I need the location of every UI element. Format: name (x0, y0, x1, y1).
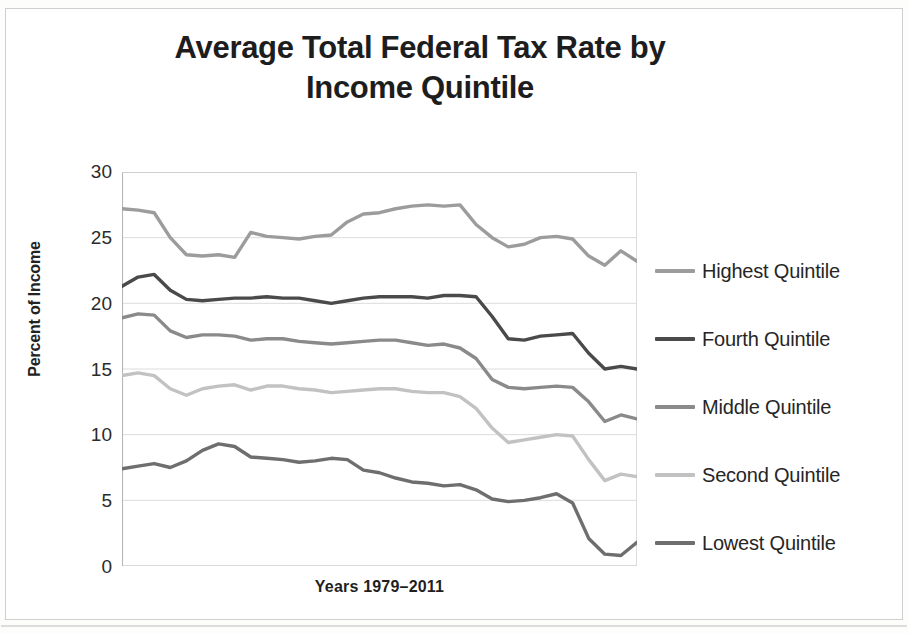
series-line (122, 314, 637, 422)
y-tick-30: 30 (72, 161, 112, 183)
legend-label-fourth-quintile: Fourth Quintile (702, 328, 830, 351)
legend-item-fourth-quintile: Fourth Quintile (655, 305, 900, 373)
gridlines (122, 172, 637, 566)
y-tick-20: 20 (72, 293, 112, 315)
y-tick-25: 25 (72, 227, 112, 249)
legend-label-second-quintile: Second Quintile (702, 464, 840, 487)
legend-label-lowest-quintile: Lowest Quintile (702, 532, 836, 555)
scanned-chart-figure: Average Total Federal Tax Rate by Income… (0, 0, 909, 634)
y-tick-5: 5 (72, 490, 112, 512)
plot-area (122, 172, 637, 566)
legend-item-highest-quintile: Highest Quintile (655, 237, 900, 305)
chart-legend: Highest Quintile Fourth Quintile Middle … (655, 237, 900, 577)
y-tick-10: 10 (72, 424, 112, 446)
legend-item-lowest-quintile: Lowest Quintile (655, 509, 900, 577)
line-chart-svg (122, 172, 637, 566)
legend-item-middle-quintile: Middle Quintile (655, 373, 900, 441)
series-line (122, 444, 637, 556)
legend-label-middle-quintile: Middle Quintile (702, 396, 831, 419)
y-axis-title: Percent of Income (26, 199, 44, 419)
legend-swatch-middle-quintile (655, 405, 695, 409)
series-line (122, 205, 637, 265)
y-tick-15: 15 (72, 359, 112, 381)
series-line (122, 274, 637, 369)
legend-item-second-quintile: Second Quintile (655, 441, 900, 509)
legend-swatch-highest-quintile (655, 269, 695, 273)
x-axis-title: Years 1979–2011 (122, 578, 637, 596)
legend-swatch-second-quintile (655, 473, 695, 477)
y-axis-tick-labels: 30 25 20 15 10 5 0 (60, 172, 112, 566)
legend-swatch-lowest-quintile (655, 541, 695, 545)
legend-swatch-fourth-quintile (655, 337, 695, 341)
series-line (122, 373, 637, 481)
y-tick-0: 0 (72, 556, 112, 578)
data-series-layer (122, 205, 637, 556)
legend-label-highest-quintile: Highest Quintile (702, 260, 840, 283)
